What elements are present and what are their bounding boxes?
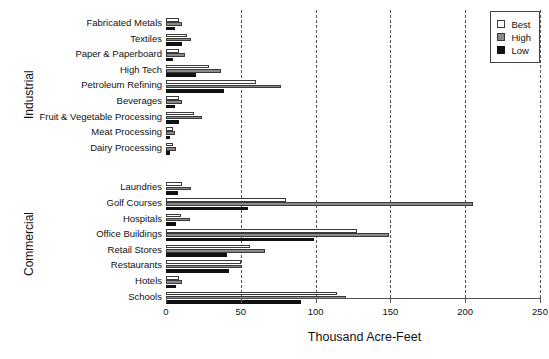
panel-label-commercial: Commercial <box>22 212 36 276</box>
bar-high <box>166 69 221 73</box>
bar-low <box>166 222 176 226</box>
bar-low <box>166 27 175 31</box>
bar-group <box>166 112 540 126</box>
bar-group <box>166 80 540 94</box>
x-axis-tick-label: 200 <box>457 306 473 317</box>
legend-item-high: High <box>497 31 531 43</box>
bar-group <box>166 34 540 48</box>
bar-high <box>166 53 185 57</box>
bar-group <box>166 96 540 110</box>
bar-best <box>166 245 250 249</box>
x-axis-tick-label: 0 <box>163 306 168 317</box>
category-label: Office Buildings <box>96 228 162 239</box>
bar-high <box>166 38 191 42</box>
bar-best <box>166 229 357 233</box>
category-label: Paper & Paperboard <box>75 48 162 59</box>
category-label: Laundries <box>120 181 162 192</box>
bar-high <box>166 218 190 222</box>
bar-group <box>166 276 540 290</box>
bar-low <box>166 42 182 46</box>
bar-high <box>166 131 175 135</box>
category-label: Fabricated Metals <box>86 17 162 28</box>
x-axis-tick <box>390 298 391 303</box>
bar-high <box>166 265 242 269</box>
bar-low <box>166 300 301 304</box>
x-axis-tick <box>540 298 541 303</box>
bar-low <box>166 73 196 77</box>
x-axis-tick-label: 100 <box>308 306 324 317</box>
category-label: Petroleum Refining <box>81 79 162 90</box>
bar-group <box>166 65 540 79</box>
category-label: High Tech <box>120 64 162 75</box>
category-label: Restaurants <box>111 259 162 270</box>
bar-group <box>166 49 540 63</box>
x-axis-title: Thousand Acre-Feet <box>0 330 549 344</box>
x-axis <box>166 298 540 299</box>
bar-group <box>166 198 540 212</box>
category-label: Meat Processing <box>91 126 162 137</box>
x-axis-tick-label: 50 <box>236 306 247 317</box>
category-label: Hotels <box>135 275 162 286</box>
legend-label-high: High <box>511 32 531 43</box>
bar-group <box>166 214 540 228</box>
bar-low <box>166 207 248 211</box>
x-axis-tick <box>241 298 242 303</box>
category-label: Retail Stores <box>108 244 162 255</box>
legend: Best High Low <box>490 11 540 63</box>
bar-low <box>166 151 170 155</box>
bar-low <box>166 191 178 195</box>
legend-item-low: Low <box>497 44 531 56</box>
bar-low <box>166 120 179 124</box>
bar-best <box>166 112 194 116</box>
bar-high <box>166 100 182 104</box>
bar-low <box>166 136 170 140</box>
bar-high <box>166 249 265 253</box>
bar-low <box>166 238 314 242</box>
bar-low <box>166 105 175 109</box>
bar-group <box>166 143 540 157</box>
category-label: Textiles <box>130 33 162 44</box>
x-axis-tick <box>316 298 317 303</box>
panel-label-industrial: Industrial <box>22 71 36 120</box>
x-axis-tick-label: 150 <box>382 306 398 317</box>
legend-label-best: Best <box>511 19 530 30</box>
bar-low <box>166 89 224 93</box>
bar-group <box>166 229 540 243</box>
bar-high <box>166 85 281 89</box>
category-label: Beverages <box>117 95 162 106</box>
bar-high <box>166 22 182 26</box>
bar-best <box>166 49 179 53</box>
bar-best <box>166 182 182 186</box>
bar-high <box>166 147 176 151</box>
bar-low <box>166 253 227 257</box>
bar-best <box>166 65 209 69</box>
bar-group <box>166 260 540 274</box>
bar-best <box>166 260 241 264</box>
bar-low <box>166 285 176 289</box>
category-label: Schools <box>128 291 162 302</box>
category-label: Dairy Processing <box>90 142 162 153</box>
category-label: Golf Courses <box>107 197 162 208</box>
gridline <box>540 10 541 298</box>
bar-group <box>166 18 540 32</box>
legend-label-low: Low <box>511 45 528 56</box>
x-axis-title-text: Thousand Acre-Feet <box>308 330 421 344</box>
legend-swatch-high-icon <box>497 33 505 41</box>
category-label: Hospitals <box>123 213 162 224</box>
bar-best <box>166 143 173 147</box>
bar-high <box>166 280 182 284</box>
bar-low <box>166 58 173 62</box>
bar-group <box>166 182 540 196</box>
legend-item-best: Best <box>497 18 531 30</box>
x-axis-tick <box>166 298 167 303</box>
bar-best <box>166 34 187 38</box>
plot-area <box>166 10 540 298</box>
bar-high <box>166 233 389 237</box>
bar-group <box>166 127 540 141</box>
bar-best <box>166 96 179 100</box>
legend-swatch-low-icon <box>497 46 505 54</box>
bar-high <box>166 187 191 191</box>
bar-group <box>166 245 540 259</box>
x-axis-tick-label: 250 <box>532 306 548 317</box>
bar-best <box>166 18 179 22</box>
